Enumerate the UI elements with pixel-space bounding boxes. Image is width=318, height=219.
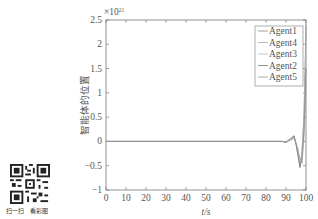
qr-code[interactable]	[10, 164, 50, 204]
legend-item-agent2: Agent2	[269, 61, 297, 71]
x-tick-label: 70	[241, 193, 251, 203]
qr-caption-color: 看彩图	[30, 207, 48, 214]
y-axis-title: 智能体的位置	[79, 75, 90, 135]
x-tick-label: 20	[141, 193, 151, 203]
y-tick-label: 1	[97, 88, 102, 98]
x-tick-label: 60	[221, 193, 231, 203]
y-tick-label: 0	[97, 136, 102, 146]
y-tick-label: 0.5	[90, 112, 102, 122]
qr-caption-scan: 扫一扫	[6, 207, 24, 214]
y-multiplier: ×1021	[104, 7, 125, 17]
qr-caption: 扫一扫看彩图	[6, 206, 62, 215]
legend-item-agent5: Agent5	[269, 72, 297, 82]
y-tick-label: −1	[92, 185, 102, 195]
y-tick-label: 2	[97, 39, 102, 49]
y-tick-label: 2.5	[90, 15, 102, 25]
legend-item-agent1: Agent1	[269, 26, 297, 36]
x-tick-label: 30	[161, 193, 171, 203]
x-tick-label: 40	[181, 193, 191, 203]
x-tick-label: 0	[104, 193, 109, 203]
legend: Agent1Agent4Agent3Agent2Agent5	[255, 26, 303, 86]
legend-item-agent4: Agent4	[269, 38, 297, 48]
x-axis-title: t/s	[202, 207, 211, 217]
x-tick-label: 10	[121, 193, 131, 203]
legend-item-agent3: Agent3	[269, 49, 297, 59]
x-tick-label: 90	[281, 193, 291, 203]
x-tick-label: 100	[299, 193, 314, 203]
series-line-agent5	[106, 83, 306, 163]
x-tick-label: 50	[201, 193, 211, 203]
y-tick-label: −0.5	[85, 161, 102, 171]
y-tick-label: 1.5	[90, 64, 102, 74]
x-tick-label: 80	[261, 193, 271, 203]
